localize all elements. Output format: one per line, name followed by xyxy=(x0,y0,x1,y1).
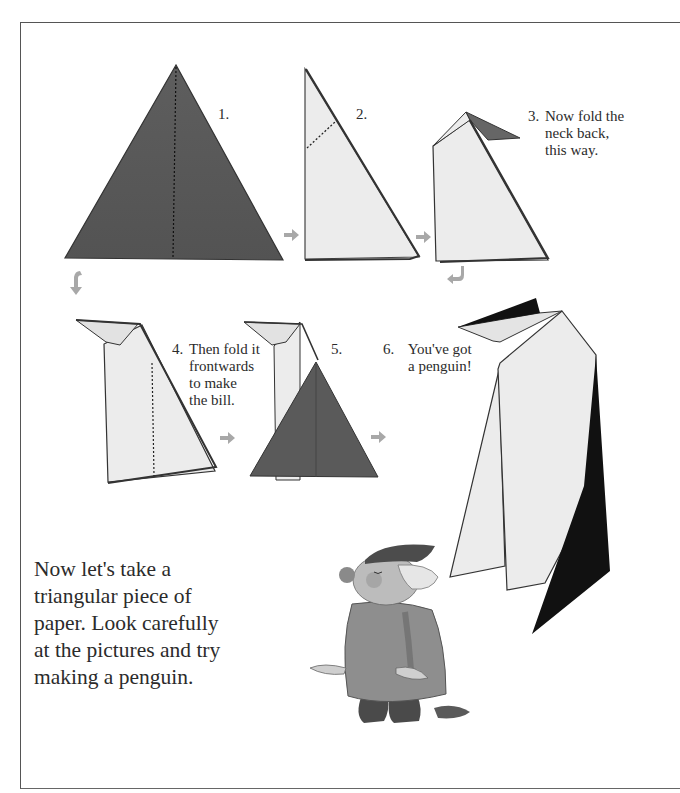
step-number: 1. xyxy=(218,106,229,122)
intro-line: at the pictures and try xyxy=(34,637,234,664)
step-1-triangle xyxy=(65,65,283,260)
step-number: 2. xyxy=(356,106,367,122)
step-text-line: neck back, xyxy=(545,125,624,142)
arrow-down-curved-icon xyxy=(70,271,82,295)
step-number: 5. xyxy=(331,341,342,357)
intro-line: Now let's take a xyxy=(34,556,234,583)
intro-line: triangular piece of xyxy=(34,583,234,610)
step-text-line: a penguin! xyxy=(400,358,472,375)
intro-line: paper. Look carefully xyxy=(34,610,234,637)
step-text-line: the bill. xyxy=(189,392,260,409)
step-text-line: this way. xyxy=(545,142,624,159)
step-text-line: Then fold it xyxy=(189,341,260,358)
step-2-triangle xyxy=(305,69,419,260)
step-text-line: You've got xyxy=(400,341,472,358)
intro-paragraph: Now let's take a triangular piece of pap… xyxy=(34,556,234,691)
step-text-line: Now fold the xyxy=(545,108,624,125)
arrow-right-icon xyxy=(371,431,386,443)
intro-line: making a penguin. xyxy=(34,664,234,691)
step-3-shape xyxy=(433,112,548,262)
penguin-finished xyxy=(450,298,610,634)
step-number: 6. xyxy=(383,341,394,358)
step-text-line: frontwards xyxy=(189,358,260,375)
arrow-right-icon xyxy=(416,231,431,243)
step-2-label: 2. xyxy=(356,106,367,123)
step-number: 3. xyxy=(528,108,539,125)
step-5-shape xyxy=(244,322,378,480)
step-text-line: to make xyxy=(189,375,260,392)
arrow-right-icon xyxy=(284,229,299,241)
step-number: 4. xyxy=(172,341,183,358)
arrow-back-curved-icon xyxy=(447,266,464,284)
gnome-character xyxy=(310,545,470,723)
step-5-label: 5. xyxy=(331,341,342,358)
arrow-right-icon xyxy=(220,432,235,444)
step-1-label: 1. xyxy=(218,106,229,123)
